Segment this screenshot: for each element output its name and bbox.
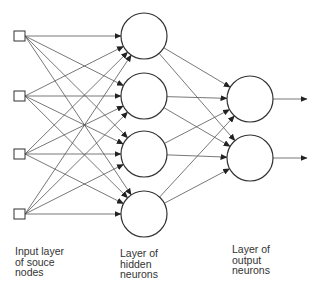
hidden-neuron: [121, 13, 167, 59]
connections: [25, 36, 307, 214]
hidden-output-edge: [164, 169, 229, 204]
input-hidden-edge: [25, 96, 123, 144]
input-node: [14, 209, 25, 219]
hidden-output-edge: [164, 110, 229, 144]
neural-network-diagram: Input layer of souce nodes Layer of hidd…: [0, 0, 316, 290]
output-neuron: [227, 135, 273, 181]
input-hidden-edge: [25, 36, 123, 86]
input-layer-label: Input layer of souce nodes: [15, 246, 64, 278]
hidden-neuron: [121, 191, 167, 237]
output-neuron: [227, 76, 273, 122]
input-node: [14, 149, 25, 159]
hidden-layer-label: Layer of hidden neurons: [120, 248, 158, 280]
hidden-output-edge: [164, 48, 230, 87]
input-hidden-edge: [25, 112, 128, 214]
input-hidden-edge: [25, 36, 131, 195]
input-node: [14, 91, 25, 101]
hidden-neuron: [121, 131, 167, 177]
output-layer-label: Layer of output neurons: [232, 244, 270, 276]
hidden-output-edge: [160, 116, 235, 197]
input-hidden-edge: [25, 55, 131, 214]
input-hidden-edge: [25, 106, 123, 154]
input-node: [14, 31, 25, 41]
hidden-neuron: [121, 73, 167, 119]
hidden-output-edge: [164, 108, 230, 147]
input-hidden-edge: [25, 36, 128, 138]
input-hidden-edge: [25, 164, 123, 214]
nodes: [14, 13, 273, 237]
